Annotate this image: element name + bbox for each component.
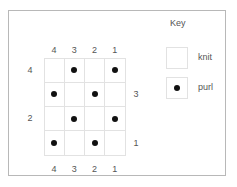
column-label-top-1: 4: [44, 44, 64, 56]
row-label-right-row2: 3: [129, 88, 143, 100]
purl-swatch-icon: [166, 77, 188, 99]
column-label-bottom-4: 1: [105, 163, 125, 175]
stitch-cell: [84, 130, 105, 155]
stitch-cell: [44, 106, 65, 131]
key-title: Key: [170, 17, 186, 29]
purl-dot-icon: [112, 116, 118, 122]
row-label-left-row1: 4: [23, 64, 37, 76]
stitch-cell: [64, 58, 85, 83]
key-legend: Key knit purl: [154, 11, 227, 177]
purl-dot-icon: [92, 140, 98, 146]
stitch-cell: [104, 58, 125, 83]
stitch-cell: [84, 58, 105, 83]
key-entry-purl: purl: [166, 77, 228, 99]
key-entry-knit: knit: [166, 47, 228, 69]
column-labels-top: 4 3 2 1: [44, 44, 125, 56]
key-label-purl: purl: [198, 81, 213, 93]
row-label-right-row4: 1: [129, 137, 143, 149]
column-label-top-2: 3: [64, 44, 84, 56]
column-label-top-4: 1: [105, 44, 125, 56]
purl-dot-icon: [51, 91, 57, 97]
stitch-cell: [44, 58, 65, 83]
stitch-cell: [84, 82, 105, 107]
column-label-bottom-1: 4: [44, 163, 64, 175]
key-label-knit: knit: [198, 51, 212, 63]
stitch-cell: [84, 106, 105, 131]
purl-dot-icon: [51, 140, 57, 146]
column-label-bottom-3: 2: [85, 163, 105, 175]
knit-swatch-icon: [166, 47, 188, 69]
stitch-cell: [104, 82, 125, 107]
column-labels-bottom: 4 3 2 1: [44, 163, 125, 175]
purl-dot-icon: [174, 85, 180, 91]
column-label-top-3: 2: [85, 44, 105, 56]
stitch-cell: [64, 82, 85, 107]
stitch-cell: [44, 82, 65, 107]
stitch-cell: [44, 130, 65, 155]
purl-dot-icon: [92, 91, 98, 97]
chart-frame: 4 3 2 1 4 3 2 1 4 3 2 1 Key knit: [8, 10, 226, 176]
stitch-cell: [104, 130, 125, 155]
stitch-cell: [104, 106, 125, 131]
purl-dot-icon: [71, 67, 77, 73]
row-label-left-row3: 2: [23, 112, 37, 124]
stitch-grid: [44, 58, 125, 155]
stitch-chart: 4 3 2 1 4 3 2 1 4 3 2 1: [9, 11, 154, 177]
stitch-cell: [64, 130, 85, 155]
stitch-cell: [64, 106, 85, 131]
column-label-bottom-2: 3: [64, 163, 84, 175]
purl-dot-icon: [112, 67, 118, 73]
purl-dot-icon: [71, 116, 77, 122]
